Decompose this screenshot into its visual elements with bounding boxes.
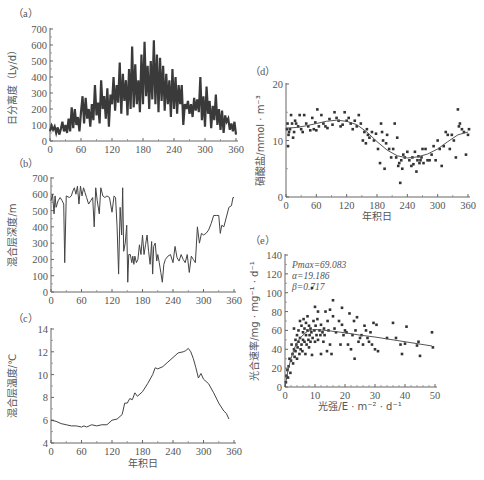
data-point (406, 151, 409, 154)
data-point (300, 343, 303, 346)
data-point (315, 334, 318, 337)
data-point (290, 114, 293, 117)
data-point (292, 136, 295, 139)
panel-label: （e） (250, 235, 275, 246)
fit-curve (286, 120, 468, 158)
data-point (339, 343, 342, 346)
panel-label: （d） (250, 66, 275, 77)
x-tick-label: 360 (228, 144, 244, 155)
y-tick-label: 700 (32, 173, 48, 184)
data-point (366, 128, 369, 131)
data-point (289, 372, 292, 375)
y-tick-label: 0 (277, 382, 282, 393)
data-point (377, 148, 380, 151)
data-point (303, 327, 306, 330)
data-point (359, 337, 362, 340)
data-point (347, 117, 350, 120)
data-point (318, 125, 321, 128)
data-point (363, 324, 366, 327)
data-point (408, 159, 411, 162)
data-point (299, 320, 302, 323)
data-point (303, 114, 306, 117)
data-point (338, 320, 341, 323)
x-tick-label: 40 (400, 390, 411, 401)
axes (51, 177, 236, 292)
data-point (431, 331, 434, 334)
chart-panel-c: （c）060120180240300360468101214混合层温度/℃年积日 (6, 313, 242, 469)
data-point (421, 148, 424, 151)
data-point (402, 153, 405, 156)
data-point (300, 324, 303, 327)
y-tick-label: 0 (43, 287, 48, 298)
data-point (399, 343, 402, 346)
x-tick-label: 10 (310, 390, 321, 401)
data-point (314, 340, 317, 343)
data-point (432, 145, 435, 148)
data-point (326, 350, 329, 353)
data-point (311, 117, 314, 120)
data-point (434, 159, 437, 162)
x-tick-label: 180 (135, 446, 151, 457)
data-point (297, 329, 300, 332)
data-point (302, 318, 305, 321)
data-point (350, 348, 353, 351)
data-point (308, 334, 311, 337)
data-point (353, 320, 356, 323)
data-point (381, 131, 384, 134)
data-point (457, 108, 460, 111)
data-point (353, 357, 356, 360)
data-point (368, 136, 371, 139)
data-point (298, 114, 301, 117)
data-point (405, 325, 408, 328)
data-point (292, 362, 295, 365)
y-tick-label: 600 (32, 189, 48, 200)
data-point (365, 142, 368, 145)
x-tick-label: 120 (104, 144, 120, 155)
x-tick-label: 50 (430, 390, 441, 401)
x-tick-label: 60 (76, 295, 87, 306)
data-point (386, 134, 389, 137)
data-point (428, 159, 431, 162)
data-point (309, 327, 312, 330)
data-point (309, 129, 312, 132)
data-point (319, 334, 322, 337)
data-point (377, 350, 380, 353)
data-point (385, 142, 388, 145)
data-point (343, 111, 346, 114)
data-point (422, 162, 425, 165)
chart-panel-a: （a）0601201802403003600100200300400500600… (6, 8, 244, 155)
data-point (312, 320, 315, 323)
data-point (305, 322, 308, 325)
data-point (398, 162, 401, 165)
data-point (430, 153, 433, 156)
data-point (323, 334, 326, 337)
panel-label: （c） (13, 313, 38, 324)
y-tick-label: 0 (278, 192, 283, 203)
x-tick-label: 300 (196, 446, 212, 457)
x-tick-label: 300 (197, 144, 213, 155)
x-tick-label: 120 (339, 200, 355, 211)
y-tick-label: 120 (266, 269, 282, 280)
data-point (366, 337, 369, 340)
data-point (358, 114, 361, 117)
data-point (294, 119, 297, 122)
data-point (322, 340, 325, 343)
data-point (295, 122, 298, 125)
data-point (401, 353, 404, 356)
data-point (293, 327, 296, 330)
data-point (347, 343, 350, 346)
x-tick-label: 180 (135, 295, 151, 306)
y-tick-label: 100 (266, 288, 282, 299)
panel-label: （b） (13, 158, 38, 169)
data-point (372, 322, 375, 325)
data-point (331, 123, 334, 126)
data-point (396, 136, 399, 139)
data-point (417, 340, 420, 343)
data-point (379, 162, 382, 165)
data-point (308, 324, 311, 327)
y-tick-label: 0 (42, 136, 47, 147)
data-point (419, 159, 422, 162)
data-point (303, 340, 306, 343)
data-point (353, 119, 356, 122)
x-tick-label: 30 (370, 390, 381, 401)
